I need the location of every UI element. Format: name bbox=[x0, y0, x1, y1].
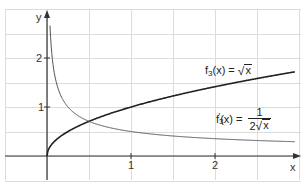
x-axis-label: x bbox=[290, 162, 296, 173]
chart-canvas bbox=[0, 0, 305, 187]
equals-sign: = bbox=[236, 113, 242, 125]
fraction-numerator: 1 bbox=[255, 106, 265, 118]
fn-prime: ′ bbox=[219, 111, 221, 121]
sqrt-expression: √x bbox=[256, 119, 270, 132]
sqrt-expression: √x bbox=[238, 64, 252, 77]
sqrt-icon: √ bbox=[238, 65, 245, 77]
sqrt-icon: √ bbox=[256, 120, 263, 132]
equals-sign: = bbox=[228, 64, 234, 76]
y-axis-label: y bbox=[36, 12, 42, 23]
x-tick-label-1: 1 bbox=[128, 160, 134, 171]
sqrt-argument: x bbox=[262, 119, 270, 132]
fn-arg: (x) bbox=[213, 64, 226, 76]
fn-subscript: 3 bbox=[208, 69, 212, 78]
label-f3-sqrt: f 3 (x) = √x bbox=[205, 64, 252, 77]
label-f3-derivative: f 3 ′ (x) = 1 2 √x bbox=[216, 106, 271, 132]
y-axis-arrow-icon bbox=[44, 10, 50, 18]
fraction: 1 2 √x bbox=[248, 106, 270, 132]
sqrt-argument: x bbox=[244, 64, 252, 77]
y-tick-label-2: 2 bbox=[36, 53, 42, 64]
y-tick-label-1: 1 bbox=[38, 102, 44, 113]
x-tick-label-2: 2 bbox=[212, 160, 218, 171]
axes bbox=[5, 10, 301, 180]
fraction-denominator: 2 √x bbox=[248, 119, 270, 132]
